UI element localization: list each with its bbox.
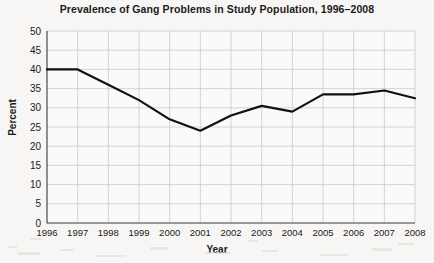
scan-artifact — [60, 249, 74, 251]
scan-artifact — [150, 247, 168, 250]
y-tick-label: 5 — [35, 198, 41, 209]
scan-artifact — [18, 252, 40, 255]
y-tick-label: 20 — [30, 141, 42, 152]
x-tick-label: 2002 — [220, 227, 241, 238]
scan-artifact — [96, 255, 126, 257]
x-tick-label: 1996 — [36, 227, 57, 238]
x-tick-label: 2004 — [282, 227, 303, 238]
y-tick-label: 10 — [30, 179, 42, 190]
x-tick-label: 2000 — [159, 227, 180, 238]
y-tick-label: 35 — [30, 83, 42, 94]
scan-artifact — [30, 238, 42, 240]
x-tick-label: 2001 — [190, 227, 211, 238]
x-tick-label: 2003 — [251, 227, 272, 238]
x-tick-label: 1999 — [128, 227, 149, 238]
scan-artifact — [398, 243, 414, 245]
x-tick-label: 2005 — [312, 227, 333, 238]
y-tick-label: 40 — [30, 64, 42, 75]
y-tick-label: 50 — [30, 26, 42, 37]
line-chart-plot: 05101520253035404550 1996199719981999200… — [0, 0, 434, 263]
scan-artifact — [8, 246, 17, 248]
scan-artifact — [248, 240, 258, 242]
y-tick-label: 15 — [30, 160, 42, 171]
x-tick-label: 2008 — [404, 227, 425, 238]
scan-artifact — [262, 250, 278, 252]
scan-artifact — [372, 248, 392, 251]
x-axis-tick-labels: 1996199719981999200020012002200320042005… — [36, 227, 425, 238]
scan-artifact — [205, 252, 230, 254]
y-tick-label: 25 — [30, 122, 42, 133]
x-tick-label: 2007 — [374, 227, 395, 238]
x-tick-label: 1997 — [67, 227, 88, 238]
y-axis-tick-labels: 05101520253035404550 — [30, 26, 42, 229]
x-tick-label: 1998 — [98, 227, 119, 238]
scan-artifact — [320, 254, 348, 256]
chart-figure: Prevalence of Gang Problems in Study Pop… — [0, 0, 434, 263]
x-tick-label: 2006 — [343, 227, 364, 238]
y-tick-label: 45 — [30, 45, 42, 56]
y-tick-label: 30 — [30, 102, 42, 113]
